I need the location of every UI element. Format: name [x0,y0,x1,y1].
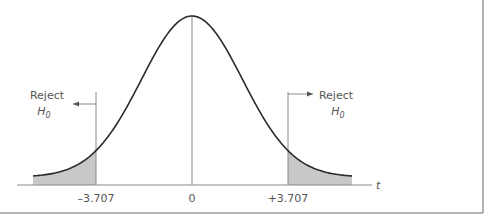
arrow-left-head [73,102,79,107]
subscript: 0 [340,111,345,120]
h0-label-right: H0 [331,105,344,120]
tick-label-center: 0 [189,192,196,205]
h0-label-left: H0 [37,105,50,120]
h-symbol: H [37,105,45,118]
tick-label-right: +3.707 [268,192,309,205]
tick-label-left: –3.707 [78,192,115,205]
chart-svg: t –3.707 0 +3.707 Reject H0 Reject H0 [0,0,486,216]
arrow-right-head [307,92,313,97]
x-axis-label: t [376,179,381,192]
reject-label-right: Reject [319,89,354,102]
h-symbol: H [331,105,339,118]
reject-label-left: Reject [30,89,65,102]
left-rejection-region [33,151,96,185]
right-rejection-region [288,151,352,185]
subscript: 0 [46,111,51,120]
t-distribution-figure: t –3.707 0 +3.707 Reject H0 Reject H0 [0,0,486,216]
